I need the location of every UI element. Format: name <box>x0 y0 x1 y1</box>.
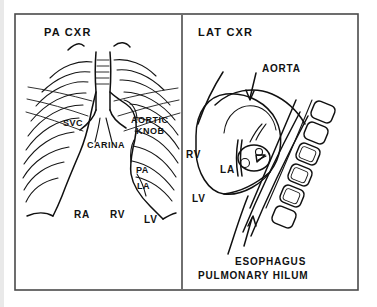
vertebral-body <box>309 100 336 125</box>
carina-inferior-line-left <box>106 118 112 142</box>
label-lat-rv: RV <box>186 149 201 160</box>
label-pulmonary-hilum: PULMONARY HILUM <box>198 270 308 281</box>
vertebral-body <box>286 163 313 188</box>
esophagus-arrow-shaft <box>244 218 252 246</box>
label-pa: PA <box>136 165 149 175</box>
left-apex-curve <box>114 43 130 47</box>
label-aortic-knob-line2: KNOB <box>136 126 165 136</box>
left-main-bronchus <box>110 110 126 128</box>
posterior-rib <box>28 87 92 101</box>
vertebral-body <box>278 184 305 209</box>
anterior-chest-wall <box>198 72 223 124</box>
lat-panel-drawing <box>196 72 337 254</box>
label-aortic-knob-line1: AORTIC <box>131 115 169 125</box>
label-rv: RV <box>110 209 125 220</box>
label-esophagus: ESOPHAGUS <box>235 256 306 267</box>
label-ra: RA <box>74 209 90 220</box>
pulmonary-vessel-circle <box>241 159 250 168</box>
pulmonary-hilum-pointer <box>228 196 248 254</box>
posterior-rib <box>114 88 178 101</box>
vertebral-body <box>302 121 329 146</box>
rib <box>26 178 58 202</box>
right-rib-cage <box>23 62 92 202</box>
label-svc: SVC <box>63 118 83 128</box>
hilum-arrowhead <box>256 155 265 162</box>
label-carina: CARINA <box>87 140 125 150</box>
chest-xray-diagram: PA CXR SVC CARINA AORTIC KNOB PA LA RA R… <box>0 0 377 307</box>
esophagus-anterior-line <box>243 112 300 232</box>
right-hemidiaphragm <box>27 213 53 216</box>
vertebral-body-inner <box>290 167 308 184</box>
trachea-right-wall <box>95 52 96 110</box>
label-la: LA <box>137 181 150 191</box>
left-hemidiaphragm <box>163 213 176 219</box>
rib <box>50 62 92 78</box>
rib <box>114 60 156 76</box>
vertebral-body-inner <box>298 146 316 163</box>
la-posterior-line-2 <box>241 140 243 176</box>
label-lat-lv: LV <box>192 193 206 204</box>
vertebral-body <box>270 205 297 230</box>
label-aorta: AORTA <box>262 63 301 74</box>
rib <box>24 162 64 190</box>
vertebral-body <box>294 142 321 167</box>
lat-panel-heading: LAT CXR <box>198 26 253 38</box>
posterior-rib <box>27 99 88 116</box>
label-lat-la: LA <box>220 164 235 175</box>
vessel-branch <box>256 124 266 140</box>
right-apex-curve <box>68 44 84 50</box>
carina-inferior-line <box>95 118 100 142</box>
figure-container: PA CXR SVC CARINA AORTIC KNOB PA LA RA R… <box>0 0 377 307</box>
trachea-left-wall <box>110 52 111 110</box>
label-lv: LV <box>144 214 158 225</box>
vertebral-body-inner <box>282 188 300 205</box>
pa-panel-heading: PA CXR <box>44 26 92 38</box>
